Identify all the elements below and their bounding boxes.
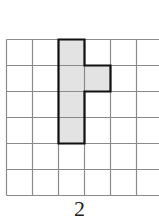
grid-figure — [0, 0, 159, 221]
figure-caption: 2 — [0, 198, 159, 220]
grid-diagram — [0, 0, 159, 221]
